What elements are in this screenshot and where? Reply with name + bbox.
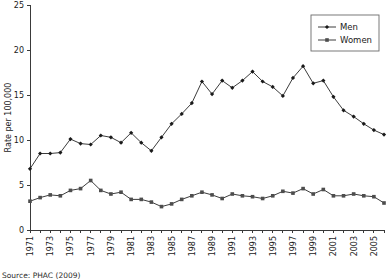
- data-point-men: [382, 133, 386, 137]
- x-tick-label: 2003: [350, 236, 359, 256]
- data-point-women: [372, 195, 376, 199]
- data-point-women: [170, 202, 174, 206]
- data-point-women: [271, 194, 275, 198]
- x-tick-label: 1991: [228, 236, 237, 256]
- data-point-women: [79, 187, 83, 191]
- data-point-women: [281, 190, 285, 194]
- x-tick-label: 1989: [208, 236, 217, 256]
- data-point-women: [190, 194, 194, 198]
- data-point-women: [332, 194, 336, 198]
- data-point-women: [48, 193, 52, 197]
- data-point-women: [180, 198, 184, 202]
- data-point-women: [362, 194, 366, 198]
- x-tick-label: 1993: [249, 236, 258, 256]
- data-point-women: [109, 192, 113, 196]
- x-tick-label: 1975: [66, 236, 75, 256]
- data-point-women: [200, 190, 204, 194]
- x-tick-label: 1987: [188, 236, 197, 256]
- data-point-women: [89, 179, 93, 183]
- data-point-men: [311, 81, 315, 85]
- data-point-women: [251, 195, 255, 199]
- data-point-men: [372, 128, 376, 132]
- y-tick-label: 25: [14, 1, 24, 10]
- data-point-women: [352, 192, 356, 196]
- data-point-women: [160, 205, 164, 209]
- x-tick-label: 2005: [370, 236, 379, 256]
- x-tick-label: 1973: [46, 236, 55, 256]
- data-point-women: [38, 196, 42, 200]
- x-tick-label: 1999: [309, 236, 318, 256]
- y-tick-label: 20: [14, 46, 24, 55]
- legend-label-women: Women: [340, 35, 372, 45]
- data-point-women: [291, 191, 295, 195]
- legend-box: [311, 15, 379, 51]
- data-point-women: [69, 189, 73, 193]
- series-line-men: [30, 66, 384, 169]
- x-tick-label: 1997: [289, 236, 298, 256]
- data-point-women: [119, 190, 123, 194]
- data-point-women: [342, 194, 346, 198]
- data-point-men: [78, 142, 82, 146]
- x-tick-label: 1983: [147, 236, 156, 256]
- data-point-men: [48, 151, 52, 155]
- data-point-women: [322, 188, 326, 192]
- x-tick-label: 1971: [26, 236, 35, 256]
- y-tick-label: 10: [14, 136, 24, 145]
- data-point-women: [301, 187, 305, 191]
- data-point-women: [382, 201, 386, 205]
- x-tick-label: 1981: [127, 236, 136, 256]
- data-point-women: [230, 192, 234, 196]
- data-point-women: [261, 197, 265, 201]
- y-tick-label: 15: [14, 91, 24, 100]
- data-point-women: [220, 197, 224, 201]
- x-tick-label: 1995: [269, 236, 278, 256]
- data-point-women: [99, 189, 103, 193]
- data-point-women: [241, 194, 245, 198]
- source-note: Source: PHAC (2009): [2, 271, 80, 280]
- x-tick-label: 1985: [168, 236, 177, 256]
- data-point-men: [321, 79, 325, 83]
- legend-marker-women: [325, 38, 329, 42]
- x-tick-label: 1977: [87, 236, 96, 256]
- data-point-women: [28, 199, 32, 203]
- data-point-women: [210, 193, 214, 197]
- legend-label-men: Men: [340, 22, 358, 32]
- y-tick-label: 0: [19, 226, 24, 235]
- data-point-men: [109, 135, 113, 139]
- data-point-women: [311, 192, 315, 196]
- data-point-women: [59, 194, 63, 198]
- data-point-women: [139, 198, 143, 202]
- y-axis-title: Rate per 100,000: [4, 83, 13, 153]
- series-line-women: [30, 181, 384, 207]
- data-point-women: [150, 200, 154, 204]
- y-tick-label: 5: [19, 181, 24, 190]
- x-tick-label: 1979: [107, 236, 116, 256]
- data-point-women: [129, 198, 133, 202]
- x-tick-label: 2001: [329, 236, 338, 256]
